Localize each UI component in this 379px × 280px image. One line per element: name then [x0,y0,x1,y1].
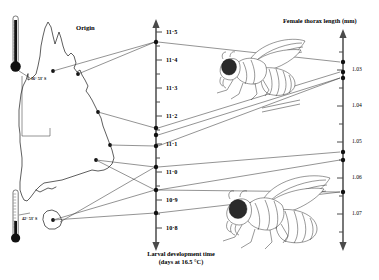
center-axis-title-line2: (days at 16.5 °C) [159,258,204,265]
tick-label-ldt-2: 11·3 [166,84,177,91]
tick-label-ldt-4: 11·1 [166,140,177,147]
female-thorax-length-axis [332,28,358,268]
tick-label-thorax-3: 1.06 [352,174,362,180]
fly-illustration-large [212,168,342,254]
tick-label-ldt-3: 11·2 [166,112,177,119]
data-point-marker [154,211,158,215]
tick-label-ldt-1: 11·4 [166,56,177,63]
data-point-marker [154,133,158,137]
tick-label-ldt-5: 11·0 [166,168,177,175]
map-site-marker [94,158,98,162]
center-axis-title-line1: Larval development time [147,250,215,257]
tick-label-thorax-0: 1.03 [352,66,362,72]
tick-label-ldt-6: 10·9 [166,196,178,203]
map-site-marker [96,110,100,114]
data-point-marker [154,126,158,130]
data-point-marker [154,165,158,169]
data-point-marker [341,190,345,194]
coordinate-north-label: 16° 53' S [31,76,46,81]
right-axis-title: Female thorax length (mm) [283,17,357,24]
thermometer-warm-icon [10,16,20,72]
data-point-marker [154,188,158,192]
tick-label-thorax-2: 1.05 [352,138,362,144]
fly-illustration-small [205,32,315,104]
map-site-marker [51,69,55,73]
data-point-marker [341,158,345,162]
origin-label: Origin [76,24,95,31]
tick-label-thorax-1: 1.04 [352,102,362,108]
thermometer-cold-icon [11,190,20,243]
tick-label-thorax-4: 1.07 [352,210,362,216]
tick-label-ldt-0: 11·5 [166,28,177,35]
data-point-marker [154,144,158,148]
center-axis-title: Larval development time (days at 16.5 °C… [106,250,256,266]
map-site-marker [76,72,80,76]
coordinate-south-label: 42° 53' S [22,216,37,221]
map-panel [0,8,160,268]
figure-root: Origin 16° 53' S 42° 53' S [0,0,379,280]
tick-label-ldt-7: 10·8 [166,224,178,231]
australia-coastline [19,22,114,229]
map-site-marker [51,218,55,222]
data-point-marker [341,70,345,74]
data-point-marker [341,76,345,80]
data-point-marker [341,150,345,154]
data-point-marker [341,60,345,64]
map-site-marker [108,143,112,147]
data-point-marker [154,40,158,44]
